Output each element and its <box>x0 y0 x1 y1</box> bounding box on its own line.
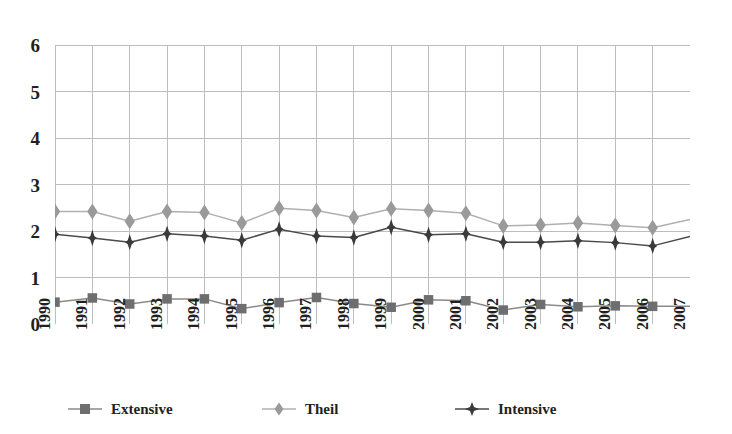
x-axis-tick-2005: 2005 <box>596 298 614 330</box>
x-axis-tick-2003: 2003 <box>522 298 540 330</box>
legend-label-theil: Theil <box>305 401 338 418</box>
x-axis-tick-2000: 2000 <box>410 298 428 330</box>
x-axis-tick-1997: 1997 <box>297 298 315 330</box>
x-axis-labels: 1990199119921993199419951996199719981999… <box>0 0 732 434</box>
legend-marker-plus-icon <box>455 402 489 416</box>
x-axis-tick-1993: 1993 <box>148 298 166 330</box>
x-axis-tick-2004: 2004 <box>559 298 577 330</box>
x-axis-tick-1990: 1990 <box>36 298 54 330</box>
legend-label-extensive: Extensive <box>111 401 173 418</box>
legend-item-intensive[interactable]: Intensive <box>455 401 556 418</box>
legend-item-theil[interactable]: Theil <box>262 401 338 418</box>
x-axis-tick-1998: 1998 <box>335 298 353 330</box>
x-axis-tick-2007: 2007 <box>671 298 689 330</box>
x-axis-tick-1991: 1991 <box>73 298 91 330</box>
legend-marker-square-icon <box>68 402 102 416</box>
legend-marker-diamond-icon <box>262 402 296 416</box>
legend-item-extensive[interactable]: Extensive <box>68 401 173 418</box>
x-axis-tick-1994: 1994 <box>185 298 203 330</box>
x-axis-tick-2002: 2002 <box>484 298 502 330</box>
x-axis-tick-1992: 1992 <box>111 298 129 330</box>
x-axis-tick-1995: 1995 <box>223 298 241 330</box>
legend-label-intensive: Intensive <box>498 401 556 418</box>
x-axis-tick-2006: 2006 <box>634 298 652 330</box>
chart-root: 0123456 19901991199219931994199519961997… <box>0 0 732 434</box>
x-axis-tick-1999: 1999 <box>372 298 390 330</box>
chart-legend: Extensive Theil Intensive <box>0 392 732 426</box>
x-axis-tick-1996: 1996 <box>260 298 278 330</box>
x-axis-tick-2001: 2001 <box>447 298 465 330</box>
